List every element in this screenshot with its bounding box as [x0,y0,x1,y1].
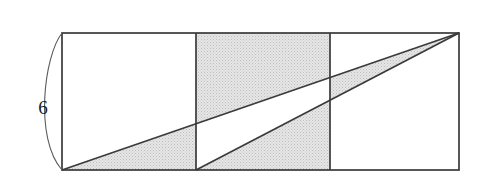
geometry-figure: 6 [0,0,494,194]
height-dimension-label: 6 [38,97,48,118]
figure-canvas: 6 [0,0,494,194]
